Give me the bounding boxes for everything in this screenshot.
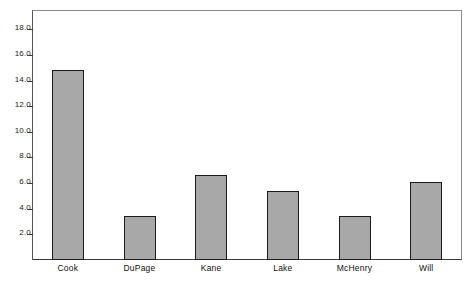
y-axis-tick-label: 6.0 [19,177,31,186]
bar [52,70,84,260]
y-axis-tick-label: 10.0 [15,126,31,135]
x-axis-tick-label: DuPage [104,263,176,273]
y-axis-tick-label: 16.0 [15,49,31,58]
y-axis-tick-label: 12.0 [15,100,31,109]
bar [195,175,227,260]
bar [267,191,299,260]
x-axis-tick-label: Cook [32,263,104,273]
y-axis-tick-label: 4.0 [19,203,31,212]
x-axis-tick-label: Lake [247,263,319,273]
bar [124,216,156,260]
y-axis-tick-label: 2.0 [19,228,31,237]
bar [410,182,442,260]
x-axis-tick-label: Will [390,263,462,273]
y-axis-tick-label: 8.0 [19,151,31,160]
x-axis: CookDuPageKaneLakeMcHenryWill [32,263,462,283]
bars-container [32,10,462,260]
y-axis-tick-label: 14.0 [15,75,31,84]
bar [339,216,371,260]
x-axis-tick-label: Kane [175,263,247,273]
bar-chart: 2.04.06.08.010.012.014.016.018.0 CookDuP… [0,0,474,285]
y-axis-tick-label: 18.0 [15,23,31,32]
x-axis-tick-label: McHenry [319,263,391,273]
